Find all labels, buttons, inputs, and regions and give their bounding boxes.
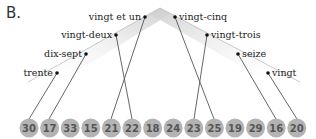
word-vingt-deux: vingt-deux xyxy=(60,29,112,40)
word-vingt-et-un: vingt et un xyxy=(88,11,141,22)
word-trente: trente xyxy=(23,67,53,78)
matching-diagram: vingt et un vingt-deux dix-sept trente v… xyxy=(0,0,316,139)
number-11: 29 xyxy=(249,123,263,134)
word-vingt-cinq: vingt-cinq xyxy=(178,11,227,22)
number-12: 16 xyxy=(269,123,283,134)
word-seize: seize xyxy=(242,48,267,59)
number-4: 21 xyxy=(104,123,118,134)
number-5: 22 xyxy=(125,123,139,134)
number-0: 30 xyxy=(22,123,36,134)
number-2: 33 xyxy=(63,123,77,134)
word-vingt: vingt xyxy=(271,67,297,78)
number-8: 23 xyxy=(187,123,201,134)
number-13: 20 xyxy=(290,123,304,134)
number-6: 18 xyxy=(146,123,160,134)
number-3: 15 xyxy=(84,123,98,134)
word-vingt-trois: vingt-trois xyxy=(210,29,261,40)
number-7: 24 xyxy=(166,123,180,134)
number-9: 25 xyxy=(207,123,221,134)
number-10: 19 xyxy=(228,123,242,134)
number-1: 17 xyxy=(43,123,57,134)
connector-dots xyxy=(55,15,270,75)
word-dix-sept: dix-sept xyxy=(44,48,82,59)
